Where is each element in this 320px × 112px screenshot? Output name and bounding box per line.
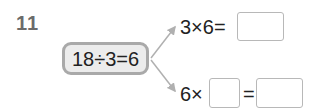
top-equation-left: 3×6=	[180, 15, 226, 39]
bottom-equation-left: 6×	[180, 82, 203, 106]
bottom-answer-box[interactable]	[256, 78, 303, 108]
bottom-factor-box[interactable]	[209, 78, 240, 108]
top-answer-box[interactable]	[237, 12, 284, 41]
bottom-equals: =	[243, 82, 255, 106]
given-equation: 18÷3=6	[62, 42, 149, 75]
